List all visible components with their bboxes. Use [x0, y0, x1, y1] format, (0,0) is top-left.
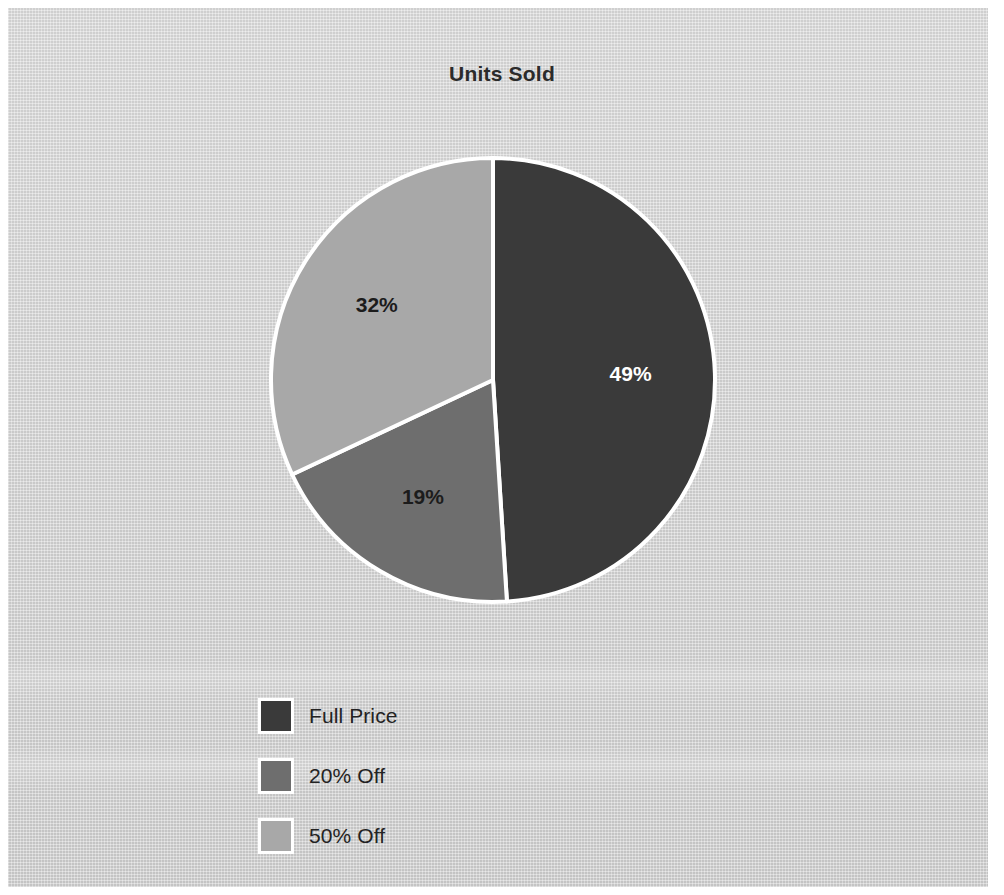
- page-title: Units Sold: [0, 62, 1004, 86]
- pie-slice-label-full-price: 49%: [610, 362, 652, 385]
- pie-slice-label-20-off: 19%: [402, 485, 444, 508]
- legend-swatch-full-price: [258, 698, 294, 734]
- legend-swatch-20-off: [258, 758, 294, 794]
- pie-slice-full-price[interactable]: [493, 158, 715, 602]
- pie-chart-svg: 49%19%32%: [269, 156, 717, 604]
- pie-slice-label-50-off: 32%: [356, 293, 398, 316]
- legend-label-50-off: 50% Off: [309, 824, 385, 848]
- legend-item-50-off[interactable]: 50% Off: [258, 806, 398, 866]
- legend-swatch-50-off: [258, 818, 294, 854]
- pie-chart: 49%19%32%: [269, 156, 717, 604]
- chart-legend: Full Price 20% Off 50% Off: [258, 686, 398, 866]
- legend-item-20-off[interactable]: 20% Off: [258, 746, 398, 806]
- legend-item-full-price[interactable]: Full Price: [258, 686, 398, 746]
- legend-label-20-off: 20% Off: [309, 764, 385, 788]
- legend-label-full-price: Full Price: [309, 704, 398, 728]
- chart-figure: Units Sold 49%19%32% Full Price 20% Off …: [0, 0, 1004, 895]
